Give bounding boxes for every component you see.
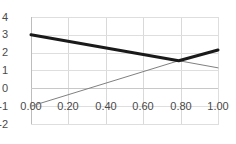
- series-line-primary: [31, 61, 218, 106]
- chart-lines: [0, 0, 236, 144]
- series-line-secondary: [31, 35, 218, 61]
- chart-container: 4 3 2 1 0 -1 -2 0.00 0.20 0.40 0.60 0.80…: [0, 0, 236, 144]
